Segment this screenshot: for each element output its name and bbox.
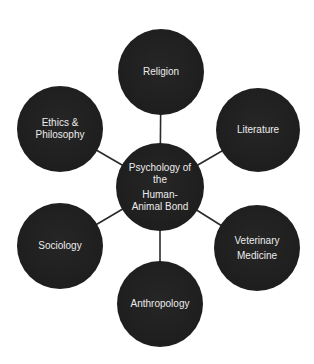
center-label-line-3: Human- [142,189,178,201]
node-label-line-2: Medicine [237,250,277,262]
node-center-psychology: Psychology of the Human- Animal Bond [116,143,204,231]
node-label: Sociology [38,240,81,252]
node-label: Literature [237,124,279,136]
node-veterinary-medicine: Veterinary Medicine [214,205,300,291]
node-sociology: Sociology [17,203,103,289]
node-religion: Religion [118,29,204,115]
node-label: Religion [143,66,179,78]
center-label-line-4: Animal Bond [132,201,189,213]
node-label-line-1: Veterinary [234,235,279,247]
node-label: Anthropology [131,298,190,310]
node-label-line-1: Ethics & [42,117,79,129]
node-anthropology: Anthropology [117,261,203,347]
node-literature: Literature [216,88,300,172]
node-label-line-2: Philosophy [36,129,85,141]
concept-diagram: Religion Literature Veterinary Medicine … [0,0,314,364]
center-label-line-1: Psychology of [129,162,191,174]
node-ethics-philosophy: Ethics & Philosophy [17,86,103,172]
center-label-line-2: the [153,174,167,186]
